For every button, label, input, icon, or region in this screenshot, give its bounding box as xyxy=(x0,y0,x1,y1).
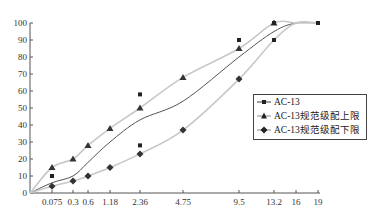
square-marker xyxy=(237,38,241,42)
triangle-marker xyxy=(180,74,187,80)
diamond-marker xyxy=(107,164,114,171)
y-tick-label: 70 xyxy=(18,69,28,79)
diamond-marker xyxy=(85,173,92,180)
triangle-marker xyxy=(49,164,56,170)
x-tick-label: 19 xyxy=(314,197,324,207)
x-tick-label: 4.75 xyxy=(175,197,191,207)
x-tick-label: 0.075 xyxy=(42,197,63,207)
x-tick-label: 1.18 xyxy=(102,197,118,207)
y-tick-label: 60 xyxy=(18,86,28,96)
legend-label: AC-13 xyxy=(274,95,300,109)
legend-label: AC-13规范级配下限 xyxy=(274,123,360,137)
legend-item-upper: AC-13规范级配上限 xyxy=(254,109,366,123)
x-tick-label: 0.3 xyxy=(67,197,79,207)
legend-label: AC-13规范级配上限 xyxy=(274,109,360,123)
diamond-marker xyxy=(137,150,144,157)
x-tick-label: 9.5 xyxy=(233,197,245,207)
x-tick-label: 2.36 xyxy=(132,197,148,207)
legend-item-ac13: AC-13 xyxy=(254,95,366,109)
y-tick-label: 0 xyxy=(23,188,28,198)
x-tick-label: 13.2 xyxy=(266,197,282,207)
square-marker xyxy=(50,174,54,178)
square-marker xyxy=(272,38,276,42)
x-tick-label: 0.6 xyxy=(82,197,94,207)
y-tick-label: 90 xyxy=(18,35,28,45)
y-tick-label: 40 xyxy=(18,120,28,130)
y-tick-label: 50 xyxy=(18,103,28,113)
chart-legend: AC-13 AC-13规范级配上限 AC-13规范级配下限 xyxy=(253,94,367,140)
square-marker xyxy=(316,21,320,25)
y-tick-label: 100 xyxy=(14,18,28,28)
square-marker xyxy=(272,21,276,25)
square-marker xyxy=(138,92,142,96)
triangle-marker-icon xyxy=(257,111,271,121)
y-tick-label: 80 xyxy=(18,52,28,62)
triangle-marker xyxy=(236,45,243,51)
y-tick-label: 30 xyxy=(18,137,28,147)
legend-item-lower: AC-13规范级配下限 xyxy=(254,123,366,137)
square-marker-icon xyxy=(257,97,271,107)
diamond-marker xyxy=(70,178,77,185)
x-tick-label: 16 xyxy=(292,197,302,207)
diamond-marker-icon xyxy=(257,125,271,135)
y-tick-label: 20 xyxy=(18,154,28,164)
square-marker xyxy=(138,143,142,147)
y-tick-label: 10 xyxy=(18,171,28,181)
